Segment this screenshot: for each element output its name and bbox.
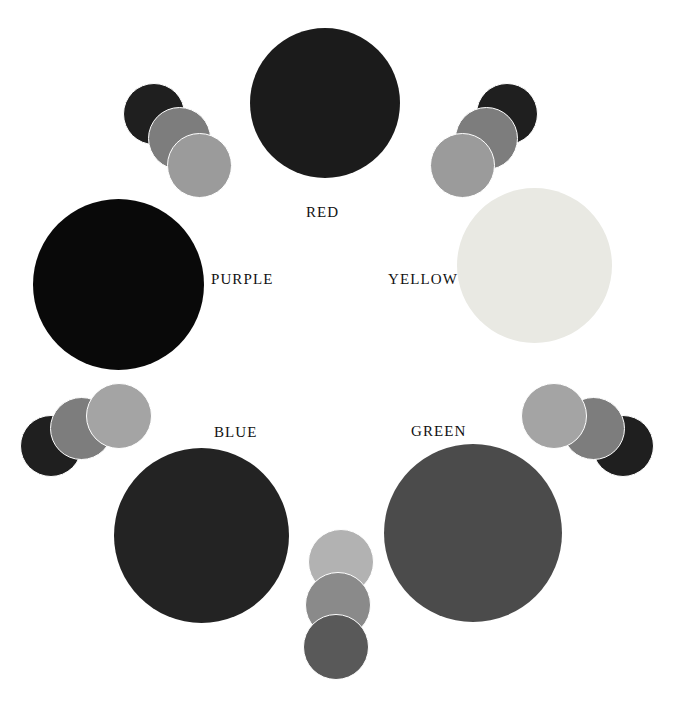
main-circle-blue <box>114 448 289 623</box>
color-wheel-figure: REDYELLOWGREENBLUEPURPLE <box>0 0 673 706</box>
main-circle-purple <box>33 199 204 370</box>
main-circle-green <box>384 444 562 622</box>
label-green: GREEN <box>411 424 467 439</box>
label-yellow: YELLOW <box>388 272 458 287</box>
label-purple: PURPLE <box>211 272 273 287</box>
label-red: RED <box>306 205 339 220</box>
cluster-lower-left-disc-light <box>86 383 152 449</box>
cluster-bottom-center-disc-dark <box>303 614 369 680</box>
cluster-upper-right-disc-light <box>430 133 495 198</box>
main-circle-red <box>250 28 400 178</box>
cluster-upper-left-disc-light <box>167 133 232 198</box>
label-blue: BLUE <box>214 425 258 440</box>
cluster-lower-right-disc-light <box>521 383 587 449</box>
main-circle-yellow <box>457 188 612 343</box>
